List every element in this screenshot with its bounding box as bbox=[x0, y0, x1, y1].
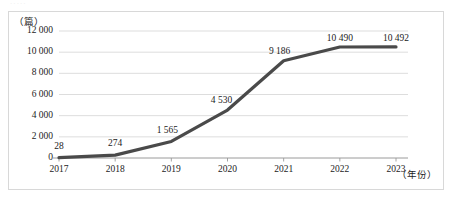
data-point-label: 9 186 bbox=[257, 46, 303, 56]
top-caption-sliver: ····· bbox=[10, 0, 70, 8]
y-axis-tick-label: 2 000 bbox=[9, 131, 53, 141]
y-axis-tick-label: 12 000 bbox=[9, 25, 53, 35]
x-axis-tick-label: 2022 bbox=[320, 164, 360, 174]
y-axis-tick-label: 8 000 bbox=[9, 67, 53, 77]
data-point-label: 1 565 bbox=[144, 125, 190, 135]
x-axis-tick-label: 2023 bbox=[376, 164, 416, 174]
x-axis-tick-label: 2020 bbox=[208, 164, 248, 174]
figure-container: ····· （篇） （年份） 02 0004 0006 0008 00010 0… bbox=[0, 0, 452, 200]
y-axis-tick-label: 6 000 bbox=[9, 89, 53, 99]
y-axis-tick-label: 10 000 bbox=[9, 46, 53, 56]
data-point-label: 10 490 bbox=[317, 33, 363, 43]
x-axis-tick-label: 2017 bbox=[39, 164, 79, 174]
x-axis-tick-label: 2021 bbox=[264, 164, 304, 174]
data-point-label: 10 492 bbox=[373, 33, 419, 43]
data-point-label: 28 bbox=[36, 141, 82, 151]
x-axis-tick-label: 2018 bbox=[95, 164, 135, 174]
data-point-label: 274 bbox=[92, 138, 138, 148]
x-axis-tick-label: 2019 bbox=[151, 164, 191, 174]
data-point-label: 4 530 bbox=[199, 95, 245, 105]
x-axis-tick-marks bbox=[59, 158, 396, 162]
y-axis-tick-label: 4 000 bbox=[9, 110, 53, 120]
y-axis-tick-label: 0 bbox=[9, 152, 53, 162]
